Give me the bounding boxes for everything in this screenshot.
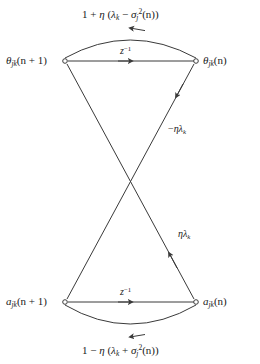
edge-top-arc-arrowhead [130,28,145,31]
edge-bottom-arc [65,305,196,324]
node-label-theta-next: θjk(n + 1) [6,55,47,68]
edge-bottom-arc-arrowhead [130,335,145,338]
edge-cross-lower-arrowhead [169,253,177,268]
edge-label-cross-lower: ηλk [178,229,190,241]
node-label-a-next: ajk(n + 1) [6,296,47,309]
edge-cross-upper-arrowhead [176,84,183,97]
node-label-a-curr: ajk(n) [203,296,227,309]
edge-label-top-arc: 1 + η (λk − σj2(n)) [82,8,159,21]
node-a-next-marker [63,300,68,305]
edge-label-bottom-delay: z−1 [120,287,131,297]
node-a-curr-marker [194,300,199,305]
node-label-theta-curr: θjk(n) [203,55,227,68]
node-theta-curr-marker [194,59,199,64]
edge-label-bottom-arc: 1 − η (λk + σj2(n)) [82,344,159,357]
edge-label-cross-upper: −ηλk [168,124,186,136]
node-theta-next-marker [63,59,68,64]
edge-label-top-delay: z−1 [120,46,131,56]
